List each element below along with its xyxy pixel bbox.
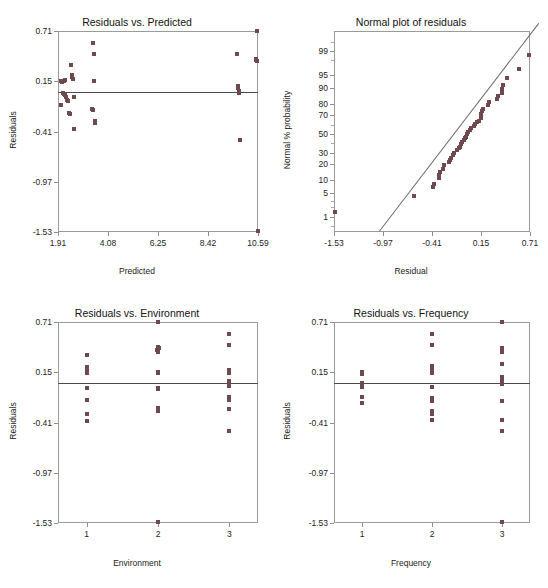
y-tick-label: -1.53 (22, 518, 52, 528)
data-point (227, 384, 231, 388)
x-tick (208, 232, 209, 236)
y-tick-label: -1.53 (22, 227, 52, 237)
data-point (430, 332, 434, 336)
y-tick (54, 182, 58, 183)
data-point (235, 52, 239, 56)
x-tick-label: 3 (500, 529, 505, 539)
y-tick (54, 473, 58, 474)
x-tick (432, 232, 433, 236)
data-point (85, 398, 89, 402)
data-point (500, 429, 504, 433)
data-point (430, 371, 434, 375)
data-point (255, 29, 259, 33)
data-point (69, 63, 73, 67)
x-tick (229, 523, 230, 527)
x-axis-title: Residual (274, 266, 548, 276)
y-minor-tick (331, 125, 334, 126)
data-point (360, 372, 364, 376)
y-tick-label: 1 (298, 212, 328, 222)
y-tick (330, 134, 334, 135)
data-point (85, 371, 89, 375)
y-minor-tick (331, 226, 334, 227)
data-point (430, 418, 434, 422)
data-point (430, 412, 434, 416)
data-point (227, 407, 231, 411)
x-tick-label: 2 (430, 529, 435, 539)
y-tick-label: 5 (298, 188, 328, 198)
data-point (500, 382, 504, 386)
data-point (91, 108, 95, 112)
y-tick-label: -0.41 (298, 418, 328, 428)
plot-normal-plot-of-residuals: Normal plot of residuals-1.53-0.97-0.410… (274, 14, 548, 294)
y-tick-label: 20 (298, 159, 328, 169)
data-point (85, 419, 89, 423)
plot-title: Normal plot of residuals (274, 16, 548, 28)
data-point (481, 107, 485, 111)
x-tick-label: 8.42 (200, 238, 217, 248)
y-tick (54, 322, 58, 323)
y-tick-label: -0.97 (298, 468, 328, 478)
y-tick-label: 99 (298, 46, 328, 56)
data-point (254, 58, 258, 62)
x-tick-label: 1 (360, 529, 365, 539)
x-axis-title: Environment (0, 558, 274, 568)
plot-residuals-vs-predicted: Residuals vs. Predicted1.914.086.258.421… (0, 14, 274, 294)
y-minor-tick (331, 207, 334, 208)
data-point (59, 103, 63, 107)
data-point (501, 83, 505, 87)
y-axis-title: Residuals (8, 75, 18, 185)
data-point (430, 343, 434, 347)
data-point (92, 52, 96, 56)
y-tick-label: 50 (298, 129, 328, 139)
plot-residuals-vs-frequency: Residuals vs. Frequency1230.710.15-0.41-… (274, 300, 548, 588)
data-point (442, 163, 446, 167)
data-point (68, 112, 72, 116)
y-tick-label: -1.53 (298, 518, 328, 528)
data-point (432, 182, 436, 186)
x-tick-label: 6.25 (150, 238, 167, 248)
data-point (527, 53, 531, 57)
data-point (85, 412, 89, 416)
y-tick-label: 0.15 (22, 76, 52, 86)
y-tick (330, 51, 334, 52)
y-tick-label: 0.71 (22, 317, 52, 327)
x-tick-label: -0.41 (422, 238, 441, 248)
y-tick (330, 75, 334, 76)
data-point (500, 320, 504, 324)
y-tick (54, 232, 58, 233)
plot-residuals-vs-environment: Residuals vs. Environment1230.710.15-0.4… (0, 300, 274, 588)
plot-frame (58, 31, 258, 232)
y-tick (54, 132, 58, 133)
data-point (430, 399, 434, 403)
data-point (63, 78, 67, 82)
y-tick-label: -0.97 (22, 177, 52, 187)
x-tick-label: 0.71 (522, 238, 539, 248)
x-tick-label: 0.15 (473, 238, 490, 248)
data-point (71, 77, 75, 81)
y-tick-label: 95 (298, 70, 328, 80)
data-point (156, 320, 160, 324)
data-point (72, 95, 76, 99)
x-tick (334, 232, 335, 236)
data-point (156, 409, 160, 413)
data-point (500, 87, 504, 91)
y-tick-label: -0.41 (22, 127, 52, 137)
data-point (156, 371, 160, 375)
data-point (500, 350, 504, 354)
x-tick (87, 523, 88, 527)
y-axis-title: Normal % probability (282, 75, 292, 185)
x-tick-label: 1 (84, 529, 89, 539)
data-point (72, 127, 76, 131)
data-point (500, 362, 504, 366)
x-axis-title: Frequency (274, 558, 548, 568)
x-tick (108, 232, 109, 236)
data-point (430, 385, 434, 389)
x-tick (432, 523, 433, 527)
x-tick-label: 2 (156, 529, 161, 539)
y-tick (330, 104, 334, 105)
data-point (500, 91, 504, 95)
x-tick-label: -0.97 (373, 238, 392, 248)
y-tick (54, 31, 58, 32)
data-point (412, 194, 416, 198)
y-tick-label: 0.15 (298, 367, 328, 377)
